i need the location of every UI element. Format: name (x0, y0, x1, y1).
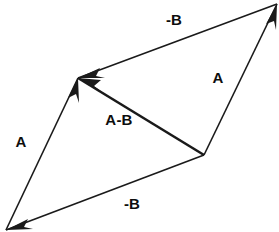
resultant-a-minus-b-vector (78, 78, 204, 155)
vector-diagram-figure: -B A A-B A -B (0, 0, 279, 232)
left-a-arrowhead (68, 78, 79, 103)
label-right-a: A (212, 69, 223, 86)
resultant-shaft (78, 78, 204, 155)
label-resultant-a-minus-b: A-B (105, 111, 132, 128)
label-top-b: -B (166, 11, 182, 28)
label-left-a: A (15, 133, 26, 150)
vector-parallelogram-svg: -B A A-B A -B (0, 0, 279, 232)
label-bottom-b: -B (124, 195, 140, 212)
